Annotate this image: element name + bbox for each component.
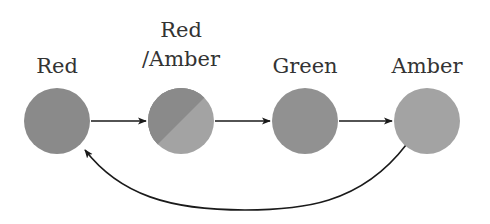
state-node-amber: [394, 88, 460, 154]
state-label-red-amber-line2: /Amber: [121, 47, 241, 71]
state-label-red: Red: [0, 54, 117, 78]
state-label-green: Green: [245, 54, 365, 78]
state-node-red: [24, 88, 90, 154]
state-label-amber: Amber: [367, 54, 487, 78]
state-node-red-amber: [140, 80, 222, 162]
state-label-red-amber-line1: Red: [121, 18, 241, 42]
state-node-green: [272, 88, 338, 154]
traffic-light-state-diagram: [0, 0, 490, 224]
transition-amber-to-red: [85, 145, 406, 210]
